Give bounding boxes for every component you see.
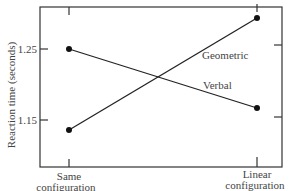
series-label-verbal: Verbal [203,79,232,91]
line-chart: 1.25 1.15 Reaction time (seconds) Same c… [0,0,295,191]
y-tick-label: 1.15 [18,114,38,126]
data-point-geometric-linear [254,15,260,21]
x-category-label: configuration [225,179,285,191]
x-category-label: configuration [36,181,96,191]
data-point-geometric-same [66,127,72,133]
series-line-geometric [69,18,257,130]
data-point-verbal-linear [254,105,260,111]
y-axis-label: Reaction time (seconds) [5,42,18,149]
data-point-verbal-same [66,46,72,52]
plot-frame [40,7,282,167]
y-tick-label: 1.25 [18,43,38,55]
series-label-geometric: Geometric [202,49,249,61]
